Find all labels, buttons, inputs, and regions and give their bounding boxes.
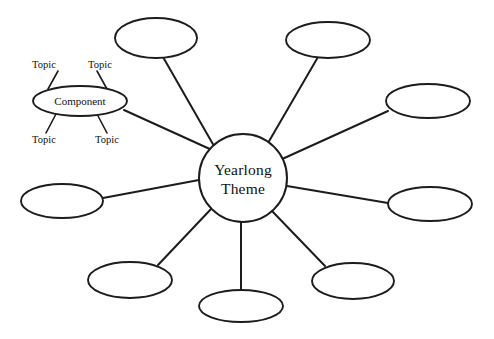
spoke-right-upper-to-center <box>280 111 388 160</box>
spoke-bottom-left-to-center <box>158 208 212 265</box>
topic-label-bottom-left: Topic <box>32 134 56 145</box>
topic-label-top-right: Topic <box>88 59 112 70</box>
center-label-line2: Theme <box>221 180 265 197</box>
node-right[interactable] <box>388 187 472 221</box>
node-right-upper[interactable] <box>386 84 470 118</box>
center-label-line1: Yearlong <box>214 161 272 178</box>
node-top-right[interactable] <box>286 22 370 58</box>
spoke-top-right-to-center <box>268 57 318 143</box>
center-circle[interactable] <box>199 134 287 222</box>
spoke-left-to-center <box>103 180 199 198</box>
center-node[interactable]: Yearlong Theme <box>199 134 287 222</box>
spoke-component-to-center <box>124 110 212 150</box>
component-label: Component <box>54 95 105 107</box>
topic-line-top-left <box>48 71 58 89</box>
diagram-canvas: Component Topic Topic Topic Topic Yearlo… <box>0 0 494 339</box>
node-left[interactable] <box>21 184 103 218</box>
spoke-bottom-right-to-center <box>272 211 325 266</box>
topic-label-top-left: Topic <box>32 59 56 70</box>
node-bottom[interactable] <box>199 290 283 322</box>
component-node[interactable]: Component <box>33 86 127 116</box>
node-top-left[interactable] <box>115 18 197 58</box>
node-bottom-left[interactable] <box>88 262 172 298</box>
concept-web-diagram: Component Topic Topic Topic Topic Yearlo… <box>0 0 494 339</box>
topic-line-bottom-left <box>46 114 56 133</box>
topic-line-bottom-right <box>97 114 107 133</box>
topic-label-bottom-right: Topic <box>95 134 119 145</box>
node-bottom-right[interactable] <box>312 263 394 299</box>
spoke-right-to-center <box>287 186 388 203</box>
spoke-top-left-to-center <box>163 57 214 146</box>
